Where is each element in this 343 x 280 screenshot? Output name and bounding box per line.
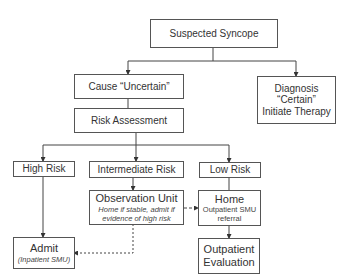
node-label-line2: “Certain” [277, 94, 316, 106]
node-high-risk: High Risk [13, 161, 75, 177]
node-note-line1: Home if stable, admit if [98, 205, 174, 214]
node-label: Cause “Uncertain” [88, 81, 169, 93]
node-label-line2: Evaluation [203, 256, 254, 269]
node-low-risk: Low Risk [199, 162, 261, 178]
node-note-line2: evidence of high risk [102, 214, 170, 223]
node-label: Suspected Syncope [170, 28, 259, 40]
edge-observation-to-admit [74, 224, 133, 253]
node-home: Home Outpatient SMU referral [198, 190, 261, 226]
node-label-line3: Initiate Therapy [262, 106, 331, 118]
node-label: Admit [30, 242, 58, 255]
node-label: Risk Assessment [91, 115, 167, 127]
node-label: Low Risk [210, 164, 251, 176]
node-suspected-syncope: Suspected Syncope [150, 19, 278, 48]
node-observation-unit: Observation Unit Home if stable, admit i… [89, 190, 184, 225]
node-risk-assessment: Risk Assessment [74, 108, 184, 133]
node-label-line1: Diagnosis [275, 83, 319, 95]
node-intermediate-risk: Intermediate Risk [89, 161, 184, 178]
node-admit: Admit (Inpatient SMU) [13, 237, 75, 269]
node-label: High Risk [23, 163, 66, 175]
node-label-line1: Outpatient [204, 243, 255, 256]
node-label: Home [215, 193, 244, 206]
node-outpatient-evaluation: Outpatient Evaluation [198, 238, 260, 274]
node-note-line2: referral [218, 214, 242, 223]
node-label: Intermediate Risk [98, 164, 176, 176]
node-note: (Inpatient SMU) [18, 255, 71, 264]
node-note-line1: Outpatient SMU [203, 205, 256, 214]
node-label: Observation Unit [96, 192, 178, 205]
node-cause-uncertain: Cause “Uncertain” [74, 74, 184, 99]
node-diagnosis-certain: Diagnosis “Certain” Initiate Therapy [257, 76, 336, 124]
